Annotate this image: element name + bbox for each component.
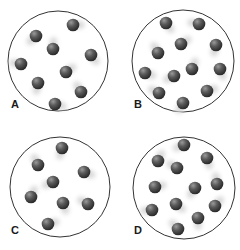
gas-particle: [192, 212, 205, 225]
gas-particle: [214, 63, 227, 76]
gas-particle: [47, 176, 60, 189]
gas-particle: [139, 67, 152, 80]
gas-particle: [189, 182, 202, 195]
gas-particle: [171, 162, 184, 175]
container-outline: [132, 10, 234, 112]
panels-group: [8, 10, 235, 239]
gas-particle: [47, 43, 60, 56]
gas-particle: [82, 198, 95, 211]
gas-particle: [210, 39, 223, 52]
gas-particle: [201, 85, 214, 98]
gas-particle: [193, 18, 206, 31]
gas-particle: [177, 97, 190, 110]
gas-particle: [78, 166, 91, 179]
gas-particle: [152, 155, 165, 168]
gas-particle: [152, 47, 165, 60]
gas-particle: [15, 58, 28, 71]
gas-particle: [60, 66, 73, 79]
gas-particle: [178, 139, 191, 152]
particle-diagram: A B C D: [0, 0, 240, 250]
container-a: [8, 11, 108, 111]
panel-label-d: D: [134, 225, 142, 236]
gas-particle: [25, 191, 38, 204]
gas-particle: [75, 86, 88, 99]
gas-particle: [30, 30, 43, 43]
diagram-canvas: [0, 0, 240, 250]
gas-particle: [201, 152, 214, 165]
panel-label-c: C: [11, 225, 19, 236]
container-d: [133, 137, 235, 239]
panel-label-a: A: [11, 99, 19, 110]
gas-particle: [32, 77, 45, 90]
gas-particle: [149, 181, 162, 194]
gas-particle: [175, 38, 188, 51]
gas-particle: [85, 49, 98, 62]
gas-particle: [67, 19, 80, 32]
gas-particle: [32, 159, 45, 172]
gas-particle: [146, 204, 159, 217]
container-b: [132, 10, 234, 115]
gas-particle: [56, 142, 69, 155]
gas-particle: [42, 218, 55, 231]
gas-particle: [170, 198, 183, 211]
gas-particle: [57, 197, 70, 210]
gas-particle: [172, 223, 185, 236]
gas-particle: [211, 178, 224, 191]
panel-label-b: B: [134, 99, 142, 110]
gas-particle: [160, 17, 173, 30]
gas-particle: [186, 63, 199, 76]
gas-particle: [209, 200, 222, 213]
gas-particle: [168, 70, 181, 83]
gas-particle: [49, 98, 62, 111]
container-c: [10, 137, 110, 237]
gas-particle: [153, 87, 166, 100]
